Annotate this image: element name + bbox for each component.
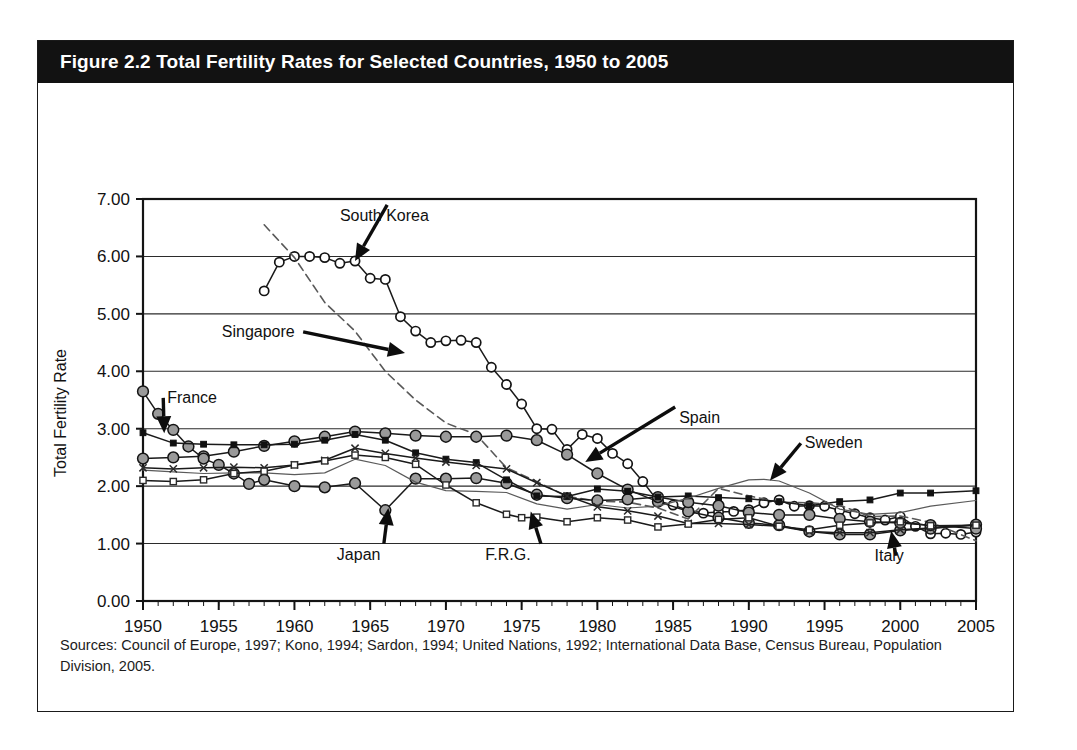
x-tick-label: 1990: [730, 617, 768, 636]
annotation-arrow: [303, 332, 405, 357]
annotation-label-singapore: Singapore: [222, 323, 295, 340]
y-tick-label: 3.00: [97, 420, 130, 439]
fertility-line-chart: 0.001.002.003.004.005.006.007.00 1950195…: [38, 83, 1013, 643]
chart-area: 0.001.002.003.004.005.006.007.00 1950195…: [38, 83, 1013, 643]
y-tick-label: 7.00: [97, 190, 130, 209]
series-singapore: [264, 225, 976, 541]
y-axis-title: Total Fertility Rate: [52, 349, 69, 477]
source-note: Sources: Council of Europe, 1997; Kono, …: [60, 635, 990, 677]
annotation-label-italy: Italy: [875, 547, 904, 564]
x-tick-label: 1975: [503, 617, 541, 636]
plot-border: [143, 199, 976, 601]
annotation-label-japan: Japan: [337, 546, 381, 563]
series-italy: [139, 445, 979, 537]
series-layer: [138, 225, 982, 541]
title-banner: Figure 2.2 Total Fertility Rates for Sel…: [38, 41, 1013, 83]
annotation-arrow: [770, 443, 801, 480]
annotation-label-sweden: Sweden: [805, 434, 863, 451]
x-tick-label: 1995: [806, 617, 844, 636]
figure-frame: Figure 2.2 Total Fertility Rates for Sel…: [37, 40, 1014, 712]
x-tick-label: 1970: [427, 617, 465, 636]
figure-title: Figure 2.2 Total Fertility Rates for Sel…: [60, 51, 668, 73]
y-tick-label: 5.00: [97, 305, 130, 324]
series-south-korea: [260, 252, 981, 539]
y-tick-label: 1.00: [97, 535, 130, 554]
x-tick-label: 1960: [276, 617, 314, 636]
x-tick-label: 1980: [578, 617, 616, 636]
y-axis-ticks: 0.001.002.003.004.005.006.007.00: [97, 190, 143, 611]
y-tick-label: 6.00: [97, 247, 130, 266]
x-tick-label: 2000: [881, 617, 919, 636]
annotation-label-f-r-g: F.R.G.: [485, 546, 530, 563]
annotation-label-france: France: [167, 389, 217, 406]
y-tick-label: 0.00: [97, 592, 130, 611]
x-axis-ticks: 1950195519601965197019751980198519901995…: [124, 601, 995, 636]
x-tick-label: 2005: [957, 617, 995, 636]
annotation-label-spain: Spain: [679, 409, 720, 426]
x-tick-label: 1950: [124, 617, 162, 636]
x-tick-label: 1965: [351, 617, 389, 636]
x-tick-label: 1955: [200, 617, 238, 636]
x-tick-label: 1985: [654, 617, 692, 636]
y-tick-label: 4.00: [97, 362, 130, 381]
y-tick-label: 2.00: [97, 477, 130, 496]
